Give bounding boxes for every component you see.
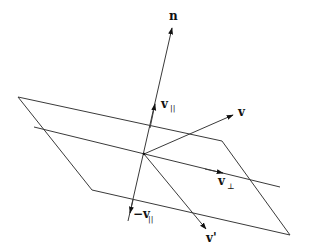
v-parallel-arrow	[150, 104, 155, 128]
label-v-parallel-sub: ||	[170, 104, 175, 113]
plane-line	[34, 127, 280, 187]
label-v-reflected: v'	[205, 231, 217, 245]
label-v: v	[237, 105, 246, 119]
v-perp-arrow	[205, 169, 223, 173]
label-neg-v-parallel-sub: ||	[148, 215, 153, 224]
label-v-perp-sub: ⊥	[227, 182, 235, 191]
reflection-diagram: n v || v v ⊥ −v || v'	[0, 0, 312, 252]
v-arrow	[144, 115, 233, 154]
normal-line	[128, 28, 172, 221]
label-v-parallel: v	[160, 97, 169, 111]
label-n: n	[169, 9, 178, 23]
label-v-perp: v	[217, 174, 226, 188]
origin-point	[143, 153, 145, 155]
